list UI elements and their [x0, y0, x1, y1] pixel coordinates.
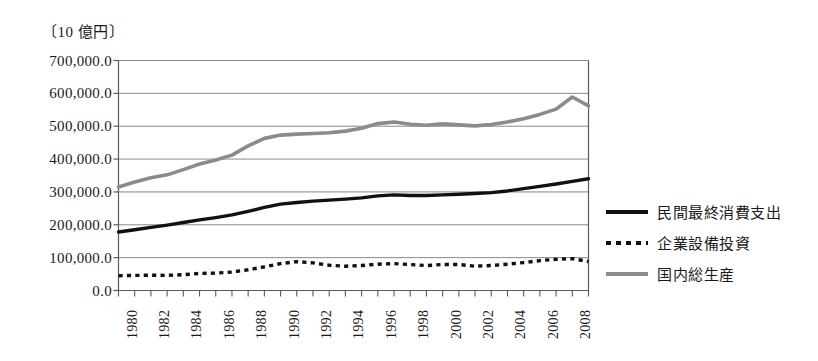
x-axis-tick-label: 1998: [416, 309, 432, 338]
legend-line-swatch: [606, 267, 648, 281]
x-axis-tick-label: 1992: [319, 309, 335, 338]
legend-item: 企業設備投資: [606, 227, 818, 258]
legend-line-swatch: [606, 205, 648, 219]
x-axis-tick-label: 1996: [384, 309, 400, 338]
legend-item: 民間最終消費支出: [606, 196, 818, 227]
legend-line-swatch: [606, 236, 648, 250]
legend-item-label: 企業設備投資: [657, 232, 750, 253]
x-axis-tick-label: 1984: [189, 309, 205, 338]
x-axis-tick-label: 1994: [351, 309, 367, 338]
x-axis-tick-label: 1986: [222, 309, 238, 338]
chart-legend: 民間最終消費支出企業設備投資国内総生産: [606, 196, 818, 289]
x-axis-tick-label: 2006: [546, 309, 562, 338]
chart-figure: 〔10 億円〕 700,000.0600,000.0500,000.0400,0…: [0, 0, 818, 361]
x-axis-tick-label: 1982: [157, 309, 173, 338]
x-axis-tick-label: 1980: [125, 309, 141, 338]
legend-item-label: 民間最終消費支出: [657, 201, 781, 222]
x-axis-tick-labels: 1980198219841986198819901992199419961998…: [0, 0, 818, 361]
legend-item: 国内総生産: [606, 258, 818, 289]
legend-item-label: 国内総生産: [657, 263, 735, 284]
x-axis-tick-label: 2004: [513, 309, 529, 338]
x-axis-tick-label: 1988: [254, 309, 270, 338]
x-axis-tick-label: 2002: [481, 309, 497, 338]
x-axis-tick-label: 2008: [578, 309, 594, 338]
x-axis-tick-label: 1990: [287, 309, 303, 338]
x-axis-tick-label: 2000: [449, 309, 465, 338]
